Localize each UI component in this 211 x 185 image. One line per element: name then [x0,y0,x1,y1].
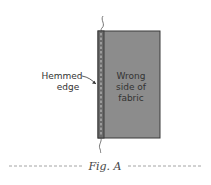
fabric-diagram: Wrong side of fabric Hemmed edge Fig. A [0,0,211,185]
hem-label-line-1: Hemmed [41,71,82,81]
fabric-label-line-2: side of [116,82,147,92]
thread-top [101,16,103,32]
figure-caption: Fig. A [87,160,121,173]
fabric-label-line-3: fabric [118,93,144,103]
thread-bottom [99,138,101,153]
fabric-label-line-1: Wrong [117,71,146,81]
hem-label-line-2: edge [57,82,80,92]
